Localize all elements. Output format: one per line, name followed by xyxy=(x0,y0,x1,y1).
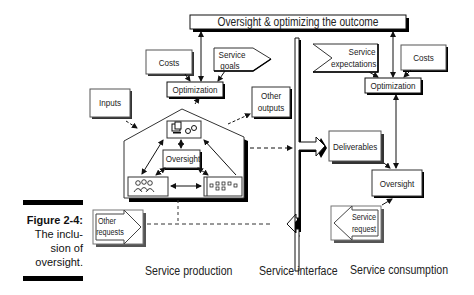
caption-top-rule xyxy=(23,200,83,205)
optimization-label-consumption: Optimization xyxy=(369,80,417,91)
other-outputs-line2: outputs xyxy=(255,102,287,113)
oversight-label-consumption: Oversight xyxy=(376,178,419,189)
service-request-line2: request xyxy=(350,224,379,235)
other-outputs-line1: Other xyxy=(255,90,287,101)
computer-gears-box xyxy=(167,121,201,138)
costs-label-production: Costs xyxy=(149,57,188,68)
banner-label: Oversight & optimizing the outcome xyxy=(206,16,390,29)
other-requests-line2: requests xyxy=(96,227,125,238)
figure-number: Figure 2-4: xyxy=(10,214,83,226)
oversight-label-production: Oversight xyxy=(166,153,197,164)
optimization-label-production: Optimization xyxy=(171,84,219,95)
caption-line-3: oversight. xyxy=(10,256,83,268)
caption-line-1: The inclu- xyxy=(10,228,83,240)
service-goals-line1: Service xyxy=(217,49,248,60)
caption-bottom-rule xyxy=(23,276,83,281)
other-requests-line1: Other xyxy=(95,216,119,227)
service-interface-bar xyxy=(287,38,327,271)
process-box xyxy=(204,177,242,196)
section-label-consumption: Service consumption xyxy=(350,263,448,277)
service-expectations-line2: expectations xyxy=(331,58,375,69)
people-box xyxy=(128,177,168,196)
caption-line-2: sion of xyxy=(10,242,83,254)
service-expectations-line1: Service xyxy=(348,46,377,57)
service-request-line1: Service xyxy=(350,212,379,223)
inputs-label: Inputs xyxy=(93,97,127,108)
section-label-interface: Service interface xyxy=(259,264,338,278)
costs-label-consumption: Costs xyxy=(404,52,442,63)
deliverables-label: Deliverables xyxy=(333,141,377,152)
service-goals-line2: goals xyxy=(216,60,243,71)
section-label-production: Service production xyxy=(145,264,232,278)
